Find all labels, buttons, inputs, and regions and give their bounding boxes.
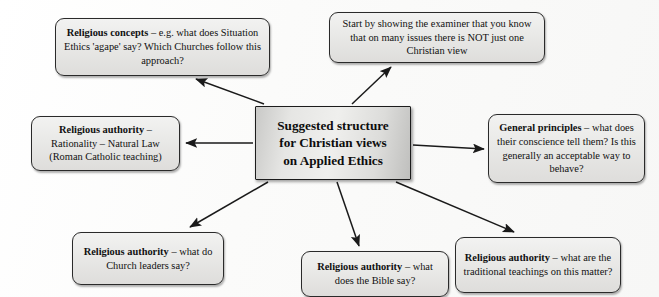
node-lead-label: Religious authority — [465, 252, 550, 263]
node-religious-authority-natural-law[interactable]: Religious authority – Rationality – Natu… — [31, 116, 180, 171]
node-religious-authority-traditional-teachings[interactable]: Religious authority – what are the tradi… — [455, 237, 621, 293]
node-lead-label: Religious concepts — [67, 27, 149, 38]
node-lead-label: Religious authority — [317, 261, 402, 272]
arrow-center-to-bottom-right — [396, 182, 514, 232]
node-lead-label: General principles — [499, 122, 581, 133]
node-lead-label: Religious authority — [59, 124, 144, 135]
arrow-center-to-top-left — [196, 79, 264, 104]
arrow-center-to-bottom-left — [190, 182, 268, 227]
node-lead-label: Religious authority — [84, 246, 169, 257]
center-line-1: Suggested structure — [277, 118, 388, 133]
node-general-principles[interactable]: General principles – what does their con… — [488, 114, 645, 183]
center-line-2: for Christian views — [279, 135, 386, 150]
center-node-suggested-structure[interactable]: Suggested structure for Christian views … — [255, 106, 411, 180]
node-body-text: Start by showing the examiner that you k… — [342, 18, 531, 56]
node-religious-authority-church-leaders[interactable]: Religious authority – what do Church lea… — [72, 232, 224, 285]
node-religious-authority-bible[interactable]: Religious authority – what does the Bibl… — [301, 251, 449, 297]
arrow-center-to-top-right — [352, 67, 391, 104]
node-religious-concepts[interactable]: Religious concepts – e.g. what does Situ… — [55, 18, 270, 76]
arrow-center-to-bottom-mid — [337, 182, 359, 246]
node-start-by-showing[interactable]: Start by showing the examiner that you k… — [329, 12, 545, 63]
arrow-center-to-right — [413, 145, 484, 149]
diagram-canvas: Religious concepts – e.g. what does Situ… — [0, 0, 659, 297]
center-line-3: on Applied Ethics — [283, 153, 383, 168]
